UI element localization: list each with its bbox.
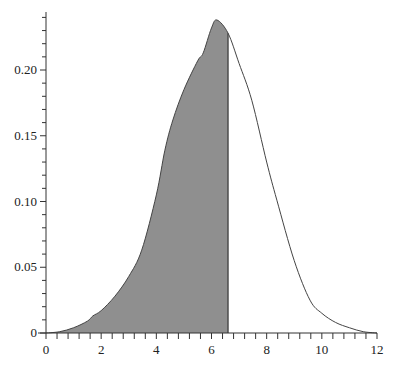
x-axis-tick-labels: 024681012 (43, 342, 384, 357)
y-tick-label: 0.10 (14, 194, 37, 209)
x-tick-label: 0 (43, 342, 50, 357)
y-tick-label: 0.05 (14, 259, 37, 274)
y-tick-label: 0.20 (14, 62, 37, 77)
y-tick-label: 0 (31, 325, 38, 340)
y-tick-label: 0.15 (14, 128, 37, 143)
x-tick-label: 4 (153, 342, 160, 357)
y-axis-tick-labels: 00.050.100.150.20 (14, 62, 37, 340)
x-tick-label: 8 (263, 342, 270, 357)
x-tick-label: 6 (208, 342, 215, 357)
shaded-area (46, 20, 377, 333)
x-tick-label: 10 (315, 342, 328, 357)
density-chart: 024681012 00.050.100.150.20 (0, 0, 398, 369)
x-tick-label: 2 (98, 342, 105, 357)
x-tick-label: 12 (371, 342, 384, 357)
